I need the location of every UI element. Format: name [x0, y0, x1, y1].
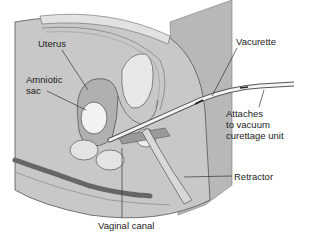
label-uterus: Uterus — [38, 38, 66, 49]
rectum — [70, 140, 98, 160]
amniotic-sac — [81, 102, 107, 134]
label-attaches: Attaches to vacuum curettage unit — [226, 108, 284, 141]
label-vacurette: Vacurette — [236, 36, 276, 47]
label-attaches-line1: Attaches — [226, 108, 284, 119]
label-amniotic-sac-line1: Amniotic — [26, 74, 62, 85]
label-attaches-line3: curettage unit — [226, 130, 284, 141]
label-attaches-line2: to vacuum — [226, 119, 284, 130]
label-amniotic-sac-line2: sac — [26, 85, 62, 96]
label-amniotic-sac: Amniotic sac — [26, 74, 62, 96]
label-vaginal-canal: Vaginal canal — [98, 220, 154, 231]
label-retractor: Retractor — [234, 171, 273, 182]
